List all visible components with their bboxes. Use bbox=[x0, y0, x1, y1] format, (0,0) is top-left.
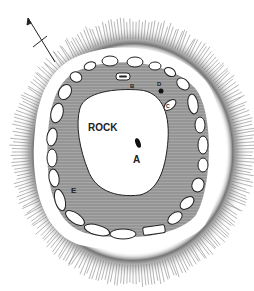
north-arrow-icon bbox=[27, 18, 55, 62]
feature-d-dot bbox=[159, 89, 164, 94]
label-rock: ROCK bbox=[88, 122, 118, 133]
label-d: D bbox=[157, 81, 162, 87]
label-b: B bbox=[130, 83, 135, 89]
label-a: A bbox=[133, 154, 140, 165]
enclosure-plan: ROCK A B D C E bbox=[0, 0, 254, 291]
label-e: E bbox=[71, 186, 77, 195]
feature-b bbox=[116, 73, 130, 80]
label-c: C bbox=[166, 103, 170, 109]
